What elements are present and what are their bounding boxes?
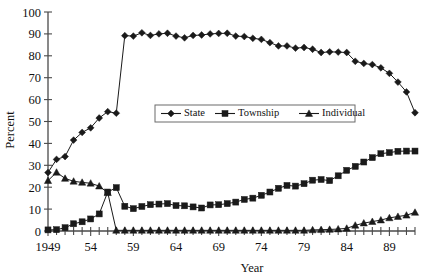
data-point-square [113,185,119,191]
legend-label-state: State [184,107,205,118]
data-point-diamond [207,31,214,38]
data-point-square [79,219,85,225]
data-point-diamond [258,36,265,43]
x-tick-label: 54 [84,240,97,254]
legend-label-township: Township [238,107,279,118]
data-point-square [395,148,401,154]
data-point-square [327,178,333,184]
x-tick-label: 79 [298,240,311,254]
data-point-diamond [156,31,163,38]
y-tick-label: 70 [29,71,42,85]
data-point-diamond [249,35,256,42]
y-tick-label: 40 [29,137,42,151]
data-point-diamond [130,33,137,40]
legend-label-individual: Individual [322,107,365,118]
data-point-diamond [113,110,120,117]
data-point-square [222,111,228,117]
series-individual [44,169,418,234]
data-point-diamond [369,61,376,68]
y-tick-label: 100 [22,6,41,20]
x-tick-label: 89 [383,240,396,254]
data-point-square [207,202,213,208]
data-point-diamond [198,32,205,39]
series-line-township [48,151,415,230]
data-point-diamond [138,29,145,36]
chart-legend: StateTownshipIndividual [155,105,365,122]
data-point-diamond [232,33,239,40]
data-point-square [275,185,281,191]
data-point-square [88,216,94,222]
data-point-square [130,206,136,212]
data-point-square [190,204,196,210]
x-tick-label: 69 [212,240,225,254]
data-point-square [71,221,77,227]
data-point-square [369,155,375,161]
data-point-square [250,195,256,201]
data-point-square [378,151,384,157]
data-point-triangle [61,175,68,181]
x-tick-label: 1949 [36,240,61,254]
data-point-diamond [121,32,128,39]
data-point-square [241,196,247,202]
data-point-diamond [45,169,52,176]
data-point-square [156,201,162,207]
data-point-square [139,203,145,209]
data-point-square [45,227,51,233]
data-point-square [233,199,239,205]
data-point-square [199,205,205,211]
data-point-diamond [377,64,384,71]
y-tick-label: 10 [29,203,42,217]
data-point-square [412,148,418,154]
y-tick-label: 0 [35,225,41,239]
data-point-diamond [309,46,316,53]
data-point-diamond [275,43,282,50]
data-point-diamond [215,30,222,37]
series-line-individual [48,172,415,230]
y-tick-label: 60 [29,93,42,107]
y-axis-title: Percent [3,111,17,149]
data-point-diamond [224,30,231,37]
data-point-square [96,211,102,217]
x-tick-label: 64 [170,240,183,254]
data-point-square [216,202,222,208]
data-point-diamond [267,39,274,46]
data-point-square [352,163,358,169]
data-point-diamond [190,32,197,39]
data-point-diamond [241,33,248,40]
data-point-diamond [335,49,342,56]
data-point-diamond [326,48,333,55]
x-tick-label: 84 [340,240,353,254]
line-chart: 0102030405060708090100194954596469747984… [0,0,440,279]
data-point-square [344,167,350,173]
data-point-diamond [181,34,188,41]
chart-container: 0102030405060708090100194954596469747984… [0,0,440,279]
data-point-diamond [318,49,325,56]
data-point-square [386,150,392,156]
data-point-square [361,159,367,165]
data-point-triangle [53,169,60,175]
data-point-square [62,225,68,231]
y-tick-label: 50 [29,115,42,129]
data-point-square [293,183,299,189]
data-point-triangle [411,209,418,215]
data-point-square [54,227,60,233]
y-tick-label: 20 [29,181,42,195]
data-point-square [224,201,230,207]
data-point-square [147,202,153,208]
data-point-square [173,203,179,209]
data-point-diamond [360,60,367,67]
y-tick-label: 30 [29,159,42,173]
data-point-square [318,177,324,183]
data-point-square [164,201,170,207]
data-point-square [182,203,188,209]
data-point-diamond [412,109,419,116]
data-point-square [267,189,273,195]
x-tick-label: 74 [255,240,268,254]
series-state [45,29,419,176]
series-township [45,148,418,233]
series-line-state [48,33,415,173]
data-point-square [258,192,264,198]
data-point-diamond [164,30,171,37]
x-tick-label: 59 [127,240,140,254]
x-axis-title: Year [240,261,264,275]
